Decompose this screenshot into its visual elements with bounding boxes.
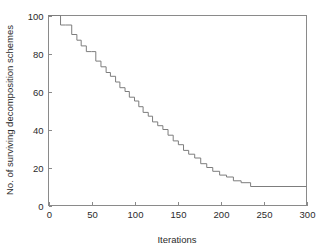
y-tick-label: 40 (33, 125, 44, 136)
y-axis-ticks (49, 17, 53, 207)
y-tick-label: 100 (28, 11, 44, 22)
figure-container: 050100150200250300 020406080100 Iteratio… (0, 0, 327, 249)
y-axis-tick-labels: 020406080100 (28, 11, 44, 212)
x-tick-label: 250 (257, 209, 273, 220)
y-tick-label: 20 (33, 163, 44, 174)
x-tick-label: 100 (128, 209, 144, 220)
y-tick-label: 60 (33, 87, 44, 98)
x-tick-label: 300 (300, 209, 316, 220)
x-tick-label: 200 (214, 209, 230, 220)
chart-canvas: 050100150200250300 020406080100 Iteratio… (0, 0, 327, 249)
y-tick-label: 0 (38, 201, 43, 212)
y-axis-title: No. of surviving decomposition schemes (4, 25, 15, 195)
x-tick-label: 50 (87, 209, 98, 220)
x-tick-label: 150 (171, 209, 187, 220)
x-axis-title: Iterations (157, 234, 196, 245)
x-tick-label: 0 (47, 209, 52, 220)
x-axis-tick-labels: 050100150200250300 (47, 209, 316, 220)
y-tick-label: 80 (33, 49, 44, 60)
plot-frame (49, 16, 307, 206)
data-series-line (49, 16, 307, 187)
x-axis-ticks (50, 202, 308, 206)
